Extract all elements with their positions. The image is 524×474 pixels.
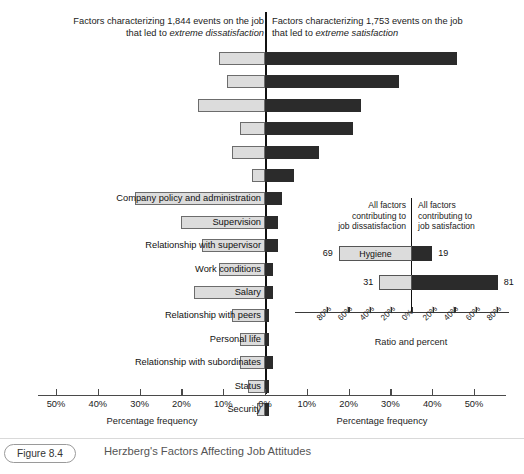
- inset-header-line: job satisfaction: [418, 221, 475, 231]
- bar-satisfaction: [265, 216, 278, 229]
- x-axis-tick-label: 10%: [214, 399, 233, 409]
- inset-header-line: All factors: [368, 200, 406, 210]
- figure-number-badge: Figure 8.4: [4, 444, 76, 463]
- header-left-line2-prefix: that led to: [126, 28, 169, 38]
- inset-axis-tick-label: 20%: [379, 304, 397, 322]
- x-axis-tick: [432, 389, 433, 396]
- x-axis-tick: [223, 389, 224, 396]
- figure-caption-title: Herzberg's Factors Affecting Job Attitud…: [104, 445, 311, 457]
- x-axis-tick: [307, 389, 308, 396]
- x-axis-tick-label: 50%: [47, 399, 66, 409]
- x-axis-tick-label: 30%: [381, 399, 400, 409]
- inset-bar-label: Hygiene: [340, 247, 411, 260]
- inset-axis-tick-label: 20%: [421, 304, 439, 322]
- inset-header-line: job dissatisfaction: [338, 221, 406, 231]
- bar-dissatisfaction: [227, 75, 265, 88]
- bar-row-label: Personal life: [210, 333, 265, 346]
- inset-axis-title: Ratio and percent: [375, 337, 448, 347]
- bar-satisfaction: [265, 263, 273, 276]
- x-axis-tick-label: 40%: [88, 399, 107, 409]
- inset-axis-tick-label: 60%: [464, 304, 482, 322]
- x-axis-title-left: Percentage frequency: [107, 416, 198, 426]
- bar-row-label: Company policy and administration: [116, 192, 265, 205]
- header-caption-dissatisfaction: Factors characterizing 1,844 events on t…: [34, 16, 264, 39]
- bar-satisfaction: [265, 52, 457, 65]
- x-axis-tick: [390, 389, 391, 396]
- inset-bar-row: Hygiene6919: [290, 246, 518, 261]
- bar-row: [0, 169, 524, 182]
- x-axis-tick: [140, 389, 141, 396]
- inset-axis-tick-label: 40%: [358, 304, 376, 322]
- bar-row-label: Status: [235, 380, 265, 393]
- inset-chart-ratio: All factorscontributing tojob dissatisfa…: [290, 198, 518, 353]
- bar-satisfaction: [265, 356, 273, 369]
- header-right-line1: Factors characterizing 1,753 events on t…: [272, 16, 463, 26]
- x-axis-tick: [181, 389, 182, 396]
- bar-row-label: Work conditions: [195, 263, 265, 276]
- bar-satisfaction: [265, 333, 269, 346]
- bar-row-label: Supervision: [212, 216, 265, 229]
- header-left-line2-emphasis: extreme dissatisfaction: [169, 28, 264, 38]
- bar-dissatisfaction: [232, 146, 265, 159]
- inset-value-right: 19: [438, 246, 448, 261]
- bar-dissatisfaction: [198, 99, 265, 112]
- bar-satisfaction: [265, 192, 282, 205]
- inset-header-dissatisfaction: All factorscontributing tojob dissatisfa…: [290, 200, 406, 232]
- bar-row: [0, 52, 524, 65]
- x-axis-tick-label: 20%: [172, 399, 191, 409]
- header-left-line1: Factors characterizing 1,844 events on t…: [73, 16, 264, 26]
- header-right-line2-emphasis: extreme satisfaction: [315, 28, 398, 38]
- x-axis-tick-label: 50%: [465, 399, 484, 409]
- header-caption-satisfaction: Factors characterizing 1,753 events on t…: [272, 16, 512, 39]
- bar-satisfaction: [265, 309, 269, 322]
- bar-satisfaction: [265, 286, 273, 299]
- caption-divider: [0, 438, 524, 439]
- bar-satisfaction: [265, 99, 361, 112]
- bar-row-label: Salary: [235, 286, 265, 299]
- x-axis-tick-label: 10%: [297, 399, 316, 409]
- inset-header-satisfaction: All factorscontributing tojob satisfacti…: [418, 200, 518, 232]
- bar-row: Relationship with subordinates: [0, 356, 524, 369]
- x-axis-tick: [98, 389, 99, 396]
- inset-axis-tick-label: 40%: [442, 304, 460, 322]
- inset-bar-satisfaction: [412, 275, 498, 290]
- header-right-line2-prefix: that led to: [272, 28, 315, 38]
- bar-satisfaction: [265, 239, 278, 252]
- bar-row-label: Relationship with peers: [165, 309, 265, 322]
- x-axis-tick-label: 0%: [258, 399, 271, 409]
- bar-satisfaction: [265, 75, 399, 88]
- bar-dissatisfaction: [240, 122, 265, 135]
- inset-bar-dissatisfaction: Hygiene: [339, 246, 412, 261]
- x-axis-tick: [349, 389, 350, 396]
- bar-row: [0, 99, 524, 112]
- inset-bar-dissatisfaction: [379, 275, 412, 290]
- bar-row: [0, 146, 524, 159]
- x-axis-tick-label: 30%: [130, 399, 149, 409]
- figure-herzberg: Factors characterizing 1,844 events on t…: [0, 0, 524, 474]
- bar-dissatisfaction: [252, 169, 265, 182]
- x-axis-tick: [265, 389, 266, 396]
- inset-header-line: contributing to: [352, 211, 406, 221]
- x-axis-tick: [56, 389, 57, 396]
- bar-row: [0, 75, 524, 88]
- inset-axis-tick-label: 80%: [315, 304, 333, 322]
- bar-row-label: Relationship with subordinates: [135, 356, 265, 369]
- bar-row: [0, 122, 524, 135]
- inset-value-right: 81: [504, 275, 514, 290]
- bar-satisfaction: [265, 122, 353, 135]
- x-axis-tick: [474, 389, 475, 396]
- bar-row: Status: [0, 380, 524, 393]
- inset-value-left: 69: [323, 246, 333, 261]
- bar-dissatisfaction: [219, 52, 265, 65]
- inset-value-left: 31: [363, 275, 373, 290]
- inset-axis-tick-label: 80%: [485, 304, 503, 322]
- inset-bar-row: 3181: [290, 275, 518, 290]
- inset-header-line: All factors: [418, 200, 456, 210]
- bar-satisfaction: [265, 146, 319, 159]
- inset-bar-satisfaction: [412, 246, 432, 261]
- x-axis-title-right: Percentage frequency: [337, 416, 428, 426]
- bar-row-label: Relationship with supervisor: [145, 239, 265, 252]
- x-axis-line: [38, 395, 506, 396]
- bar-satisfaction: [265, 169, 294, 182]
- inset-axis-tick-label: 60%: [336, 304, 354, 322]
